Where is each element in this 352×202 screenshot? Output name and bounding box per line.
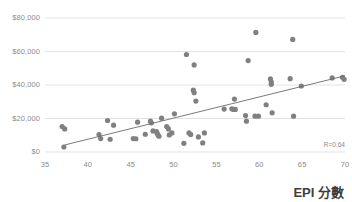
- y-tick-label: $60,000: [12, 47, 40, 56]
- data-point: [105, 118, 110, 123]
- data-point: [288, 76, 293, 81]
- data-point: [244, 119, 249, 124]
- data-point: [342, 77, 347, 82]
- data-point: [256, 114, 261, 119]
- x-tick-label: 45: [119, 160, 143, 169]
- x-tick-label: 55: [204, 160, 228, 169]
- data-point: [111, 123, 116, 128]
- data-point: [156, 134, 161, 139]
- data-point: [196, 134, 201, 139]
- data-point: [193, 98, 198, 103]
- data-point: [291, 114, 296, 119]
- data-point: [135, 120, 140, 125]
- data-point: [159, 116, 164, 121]
- y-tick-label: $20,000: [12, 114, 40, 123]
- data-point: [181, 141, 186, 146]
- data-point: [233, 107, 238, 112]
- scatter-chart: $0$20,000$40,000$60,000$80,000 354045505…: [0, 0, 352, 202]
- data-point: [133, 136, 138, 141]
- data-points: [60, 30, 347, 150]
- data-point: [264, 102, 269, 107]
- data-point: [184, 52, 189, 57]
- x-axis-title: EPI 分數: [293, 182, 344, 201]
- y-tick-label: $0: [31, 147, 40, 156]
- data-point: [269, 82, 274, 87]
- data-point: [169, 130, 174, 135]
- data-point: [243, 113, 248, 118]
- data-point: [222, 107, 227, 112]
- data-point: [200, 140, 205, 145]
- x-tick-label: 60: [247, 160, 271, 169]
- data-point: [232, 96, 237, 101]
- data-point: [253, 30, 258, 35]
- data-point: [108, 137, 113, 142]
- data-point: [192, 90, 197, 95]
- y-tick-label: $80,000: [12, 13, 40, 22]
- x-tick-label: 35: [33, 160, 57, 169]
- data-point: [172, 111, 177, 116]
- data-point: [246, 58, 251, 63]
- data-point: [202, 130, 207, 135]
- data-point: [290, 37, 295, 42]
- data-point: [192, 62, 197, 67]
- chart-canvas: [0, 0, 352, 202]
- x-tick-label: 40: [76, 160, 100, 169]
- x-tick-label: 70: [333, 160, 352, 169]
- y-tick-label: $40,000: [12, 80, 40, 89]
- data-point: [143, 132, 148, 137]
- data-point: [62, 126, 67, 131]
- data-point: [166, 126, 171, 131]
- x-tick-label: 50: [162, 160, 186, 169]
- data-point: [270, 110, 275, 115]
- correlation-annotation: R=0.64: [324, 141, 345, 148]
- data-point: [188, 132, 193, 137]
- x-tick-label: 65: [290, 160, 314, 169]
